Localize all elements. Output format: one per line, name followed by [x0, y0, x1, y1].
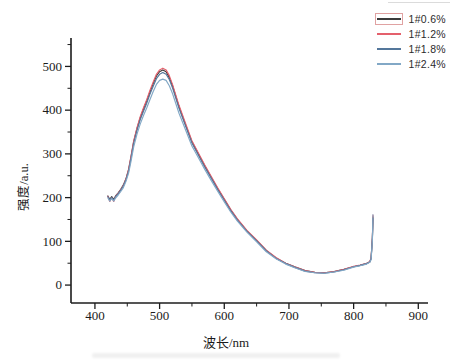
legend-entry-label: 1#1.8% [409, 43, 446, 55]
x-axis-label: 波长/nm [203, 332, 249, 351]
legend-line-sample [375, 43, 403, 55]
legend-entry-label: 1#0.6% [409, 13, 446, 25]
legend-entry: 1#2.4% [375, 57, 446, 71]
legend-line-sample [375, 13, 403, 25]
x-tick-label: 500 [150, 308, 170, 323]
series-line-1#1.8% [108, 73, 373, 274]
series-line-1#2.4% [108, 79, 373, 273]
faint-caption-ghost [92, 353, 340, 358]
legend: 1#0.6% 1#1.2% 1#1.8% 1#2.4% [375, 12, 446, 71]
legend-entry: 1#0.6% [375, 12, 446, 26]
legend-entry-label: 1#1.2% [409, 28, 446, 40]
x-tick-label: 700 [279, 308, 299, 323]
y-axis-label: 强度/a.u. [13, 163, 32, 211]
legend-entry-label: 1#2.4% [409, 58, 446, 70]
legend-entry: 1#1.8% [375, 42, 446, 56]
y-tick-label: 300 [43, 146, 63, 161]
y-tick-label: 0 [56, 277, 63, 292]
y-tick-label: 400 [43, 102, 63, 117]
x-tick-label: 900 [409, 308, 429, 323]
y-tick-label: 100 [43, 234, 63, 249]
scan-artifact-line [388, 2, 450, 3]
y-tick-label: 200 [43, 190, 63, 205]
legend-entry: 1#1.2% [375, 27, 446, 41]
spectrum-figure: 4005006007008009000100200300400500 强度/a.… [0, 0, 450, 362]
y-tick-label: 500 [43, 59, 63, 74]
legend-line-sample [375, 28, 403, 40]
x-tick-label: 600 [215, 308, 235, 323]
x-tick-label: 400 [85, 308, 105, 323]
x-tick-label: 800 [344, 308, 364, 323]
legend-line-sample [375, 58, 403, 70]
